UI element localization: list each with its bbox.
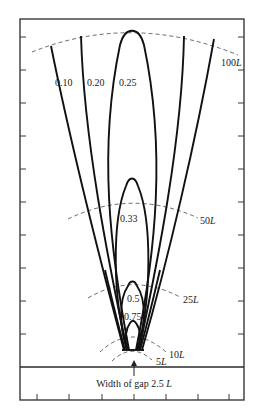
bottom-axis-ticks <box>37 394 229 400</box>
lobe-label-0.33: 0.33 <box>120 213 138 224</box>
gap-arrow-icon <box>131 360 137 376</box>
distance-label-25L: 25L <box>183 294 199 305</box>
lobe-label-0.10: 0.10 <box>55 77 73 88</box>
distance-label-5L: 5L <box>156 356 167 367</box>
arc-100L <box>32 33 238 55</box>
lobe-label-0.75: 0.75 <box>124 311 142 322</box>
left-axis-ticks <box>20 37 26 334</box>
distance-label-10L: 10L <box>169 349 185 360</box>
gap-width-caption: Width of gap 2.5 L <box>96 378 172 389</box>
lobe-label-0.5: 0.5 <box>127 293 140 304</box>
distance-label-50L: 50L <box>200 215 216 226</box>
right-axis-ticks <box>238 37 244 334</box>
diffraction-lobe-diagram: 0.10 0.20 0.25 0.33 0.5 0.75 100L 50L 25… <box>0 0 257 409</box>
distance-labels: 100L 50L 25L 10L 5L <box>156 57 242 367</box>
arc-5L <box>112 351 152 361</box>
lobe-label-0.25: 0.25 <box>119 77 137 88</box>
distance-label-100L: 100L <box>221 57 242 68</box>
lobe-label-0.20: 0.20 <box>87 77 105 88</box>
